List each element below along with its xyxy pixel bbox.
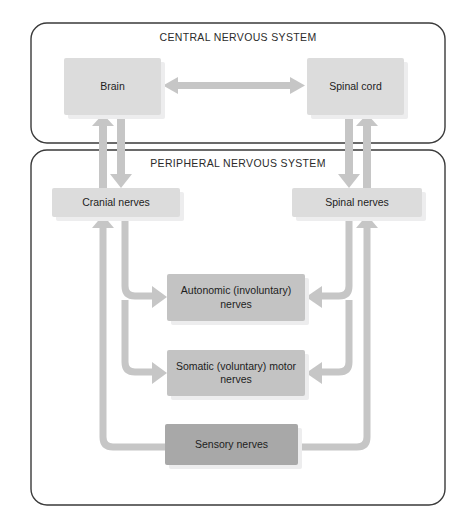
node-autonomic-nerves[interactable]: Autonomic (involuntary) nerves [167,274,305,321]
connector-spinal-to-autonomic [306,217,349,308]
panel-title-central-nervous-system: CENTRAL NERVOUS SYSTEM [31,31,445,43]
connector-brain-spinal-cord [163,77,305,94]
node-sensory-nerves[interactable]: Sensory nerves [165,424,298,465]
connector-spinal-nerves-to-spinal-cord [356,114,378,188]
node-spinal-nerves[interactable]: Spinal nerves [292,188,422,217]
node-cranial-nerves[interactable]: Cranial nerves [52,188,180,217]
connector-cranial-to-brain [92,114,114,188]
nervous-system-diagram: CENTRAL NERVOUS SYSTEM PERIPHERAL NERVOU… [0,0,468,528]
connector-cranial-to-autonomic [125,217,167,308]
connector-cranial-to-somatic [125,300,167,384]
node-brain[interactable]: Brain [64,58,161,115]
node-somatic-nerves[interactable]: Somatic (voluntary) motor nerves [167,350,305,396]
connector-sensory-to-spinal [298,210,378,447]
node-spinal-cord[interactable]: Spinal cord [307,58,404,115]
connector-spinal-to-somatic [306,300,349,384]
panel-title-peripheral-nervous-system: PERIPHERAL NERVOUS SYSTEM [31,157,445,169]
